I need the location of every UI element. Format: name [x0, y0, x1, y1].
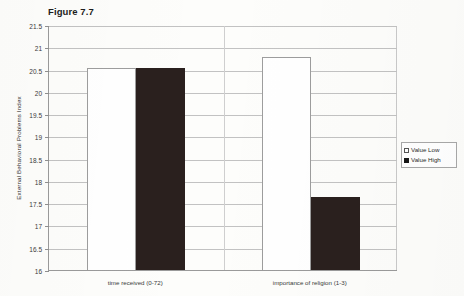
y-axis-tick-label: 19 — [35, 134, 42, 141]
y-axis-tick — [45, 71, 49, 72]
category-separator — [224, 26, 225, 270]
y-axis-tick — [45, 115, 49, 116]
legend-item-value-low: Value Low — [404, 145, 454, 155]
y-axis-tick — [45, 26, 49, 27]
legend-swatch-low-icon — [404, 148, 409, 153]
y-axis-tick-label: 17.5 — [29, 201, 42, 208]
y-axis-tick-label: 18.5 — [29, 156, 42, 163]
y-axis-tick — [45, 271, 49, 272]
y-axis-tick-label: 17 — [35, 223, 42, 230]
y-axis-tick-label: 19.5 — [29, 112, 42, 119]
x-axis-category-label: importance of religion (1-3) — [273, 279, 347, 286]
bar-value-low — [87, 68, 136, 270]
legend-item-value-high: Value High — [404, 155, 454, 165]
y-axis-tick — [45, 137, 49, 138]
y-axis-tick — [45, 249, 49, 250]
page-title: Figure 7.7 — [48, 6, 94, 17]
chart-legend: Value Low Value High — [401, 142, 457, 168]
figure-container: Figure 7.7 External Behavioral Problems … — [0, 0, 464, 296]
y-axis-tick — [45, 160, 49, 161]
bar-value-high — [136, 68, 185, 270]
legend-label-low: Value Low — [411, 147, 439, 153]
y-axis-tick — [45, 182, 49, 183]
y-axis-tick-label: 16.5 — [29, 245, 42, 252]
y-axis-tick-label: 21.5 — [29, 23, 42, 30]
bar-value-low — [262, 57, 311, 270]
legend-label-high: Value High — [411, 157, 441, 163]
y-axis-tick — [45, 48, 49, 49]
x-axis-category-label: time received (0-72) — [108, 279, 163, 286]
y-axis-tick-label: 18 — [35, 178, 42, 185]
y-axis-title: External Behavioral Problems Index — [15, 96, 22, 199]
y-axis-tick — [45, 226, 49, 227]
plot-frame-right — [396, 26, 397, 270]
y-axis-tick — [45, 93, 49, 94]
y-axis-tick-label: 21 — [35, 45, 42, 52]
bar-value-high — [311, 197, 360, 270]
plot-area: 21.52120.52019.51918.51817.51716.516 — [48, 26, 397, 271]
y-axis-tick-label: 20.5 — [29, 67, 42, 74]
y-axis-tick-label: 16 — [35, 268, 42, 275]
legend-swatch-high-icon — [404, 158, 409, 163]
y-axis-tick-label: 20 — [35, 89, 42, 96]
y-axis-tick — [45, 204, 49, 205]
